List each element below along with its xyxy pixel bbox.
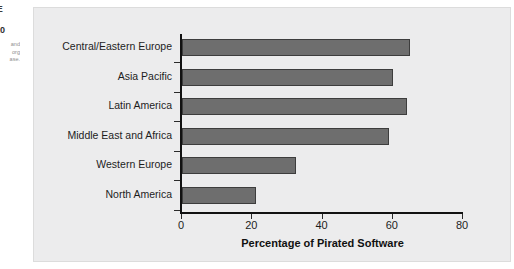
margin-caption: RE 010 and org ase.: [0, 4, 20, 64]
y-axis-tick: [174, 62, 180, 63]
caption-body-line: ase.: [0, 56, 20, 64]
category-label: Western Europe: [96, 158, 179, 170]
x-axis-tick-label: 0: [178, 219, 184, 231]
bar-chart: Central/Eastern EuropeAsia PacificLatin …: [34, 8, 510, 261]
x-axis-tick-label: 80: [456, 219, 468, 231]
bar: [182, 39, 410, 56]
x-axis-tick-label: 60: [386, 219, 398, 231]
y-axis-tick: [174, 151, 180, 152]
caption-body-line: and: [0, 41, 20, 49]
bar: [182, 98, 407, 115]
bar: [182, 128, 389, 145]
caption-heading-fragment: RE: [0, 4, 20, 15]
category-label: Latin America: [108, 99, 179, 111]
caption-body-text: and org ase.: [0, 41, 20, 64]
bar: [182, 69, 393, 86]
caption-body-line: org: [0, 49, 20, 57]
y-axis-tick: [174, 92, 180, 93]
caption-number-fragment: 010: [0, 24, 20, 36]
y-axis-tick: [174, 121, 180, 122]
category-label: Middle East and Africa: [68, 129, 179, 141]
y-axis-tick: [174, 180, 180, 181]
category-label: Asia Pacific: [118, 70, 179, 82]
y-axis-tick: [174, 210, 180, 211]
category-label: Central/Eastern Europe: [62, 40, 179, 52]
category-label: North America: [105, 188, 179, 200]
bar: [182, 157, 296, 174]
x-axis-title: Percentage of Pirated Software: [181, 237, 464, 249]
bar: [182, 187, 256, 204]
x-axis-tick-label: 20: [245, 219, 257, 231]
x-axis-tick-label: 40: [315, 219, 327, 231]
figure-panel: Central/Eastern EuropeAsia PacificLatin …: [33, 7, 511, 262]
